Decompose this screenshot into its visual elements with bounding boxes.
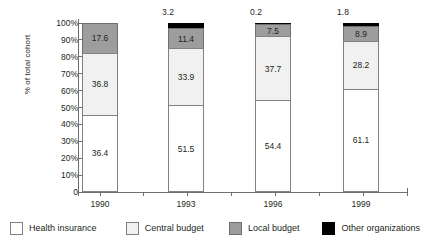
stacked-bar-chart: % of total cohort 100% 90% 80% 70% 60% 5… [0,0,426,246]
y-axis-tick-label: 50% [34,104,78,112]
segment-health-insurance-1993[interactable]: 51.5 [168,105,204,192]
legend-label: Local budget [248,223,300,233]
x-axis-tick-mark [100,192,101,196]
x-axis-label-1993: 1993 [156,199,216,209]
segment-value-label: 28.2 [353,60,370,70]
y-axis-tick-label: 70% [34,70,78,78]
y-axis-tick-label: 100% [34,19,78,27]
x-axis-line [78,192,408,193]
y-axis-tick-label: 90% [34,36,78,44]
bar-1996[interactable]: 0.2 7.5 37.7 54.4 [255,23,291,192]
segment-health-insurance-1999[interactable]: 61.1 [343,89,379,192]
segment-value-label: 51.5 [178,144,195,154]
segment-value-label: 11.4 [178,34,194,44]
segment-health-insurance-1996[interactable]: 54.4 [255,100,291,192]
segment-local-budget-1990[interactable]: 17.6 [82,23,118,53]
y-axis-tick-label: 40% [34,120,78,128]
x-axis-label-1996: 1996 [243,199,303,209]
legend-label: Other organizations [341,223,420,233]
x-axis-tick-mark [275,192,276,196]
legend-swatch-other-organizations-icon [322,222,335,235]
y-axis-title: % of total cohort [23,0,32,140]
segment-value-label: 61.1 [353,135,370,145]
legend-item-central-budget[interactable]: Central budget [126,222,215,235]
legend-item-local-budget[interactable]: Local budget [229,222,309,235]
x-axis-label-1990: 1990 [70,199,130,209]
segment-central-budget-1999[interactable]: 28.2 [343,41,379,89]
legend-label: Health insurance [29,223,97,233]
bar-1999[interactable]: 1.8 8.9 28.2 61.1 [343,23,379,192]
plot-area: 17.6 36.8 36.4 3.2 11.4 33.9 51.5 [78,23,408,192]
x-axis-tick-mark [319,192,320,196]
y-axis-tick-label: 20% [34,154,78,162]
segment-local-budget-1996[interactable]: 7.5 [255,24,291,37]
x-axis-tick-mark [407,192,408,196]
segment-value-label: 37.7 [265,64,282,74]
segment-local-budget-1993[interactable]: 11.4 [168,28,204,47]
segment-value-label: 8.9 [355,29,367,39]
bar-1990[interactable]: 17.6 36.8 36.4 [82,23,118,192]
segment-value-label: 17.6 [92,33,109,43]
segment-value-label: 36.4 [92,148,109,158]
segment-value-label: 7.5 [267,26,279,36]
chart-legend: Health insurance Central budget Local bu… [10,218,420,238]
top-value-label-1993: 3.2 [138,8,198,17]
x-axis-tick-mark [143,192,144,196]
segment-central-budget-1996[interactable]: 37.7 [255,36,291,100]
x-axis-tick-mark [231,192,232,196]
x-axis-label-1999: 1999 [331,199,391,209]
y-axis-tick-label: 60% [34,87,78,95]
segment-central-budget-1993[interactable]: 33.9 [168,48,204,105]
x-axis-tick-mark [78,192,79,196]
y-axis-tick-label: 10% [34,171,78,179]
legend-item-other-organizations[interactable]: Other organizations [322,222,420,235]
y-axis-tick-label: 80% [34,53,78,61]
legend-label: Central budget [145,223,204,233]
x-axis-tick-mark [363,192,364,196]
y-axis-tick-label: 30% [34,137,78,145]
segment-value-label: 36.8 [92,79,109,89]
segment-local-budget-1999[interactable]: 8.9 [343,26,379,41]
segment-health-insurance-1990[interactable]: 36.4 [82,115,118,192]
x-axis-tick-mark [187,192,188,196]
segment-value-label: 33.9 [178,72,195,82]
segment-central-budget-1990[interactable]: 36.8 [82,53,118,115]
segment-value-label: 54.4 [265,141,282,151]
legend-swatch-health-insurance-icon [10,222,23,235]
legend-swatch-local-budget-icon [229,222,242,235]
bar-1993[interactable]: 3.2 11.4 33.9 51.5 [168,23,204,192]
legend-item-health-insurance[interactable]: Health insurance [10,222,112,235]
top-value-label-1996: 0.2 [226,8,286,17]
top-value-label-1999: 1.8 [313,8,373,17]
legend-swatch-central-budget-icon [126,222,139,235]
y-axis-tick-label: 0 [34,188,78,196]
